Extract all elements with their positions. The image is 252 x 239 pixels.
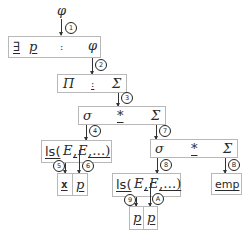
cell-p: p — [72, 173, 88, 196]
badge-8: 8 — [160, 159, 172, 171]
pure-box: Π : Σ — [57, 74, 127, 93]
star2-sigma: σ — [155, 142, 164, 156]
ls2-arg1: E — [134, 177, 144, 191]
emp-label: emp — [215, 178, 239, 192]
pure-pi: Π — [63, 77, 74, 91]
badge-B: B — [228, 159, 240, 171]
badge-3: 3 — [121, 92, 133, 104]
arrow-1 — [61, 19, 62, 35]
star-box-2: σ * Σ — [150, 139, 238, 158]
star1-Sigma: Σ — [151, 109, 160, 123]
ls-box-1: ls( E , E ,…) — [41, 140, 112, 163]
emp-box: emp — [211, 173, 242, 195]
pure-sigma: Σ — [112, 77, 121, 91]
arrow-9 — [136, 197, 137, 206]
badge-2: 2 — [95, 59, 107, 71]
badge-4: 4 — [89, 125, 101, 137]
badge-1: 1 — [65, 22, 77, 34]
exists-body: φ — [88, 39, 97, 53]
badge-7: 7 — [159, 125, 171, 137]
badge-A: A — [152, 193, 164, 205]
star-box-1: σ * Σ — [78, 106, 166, 125]
arrow-B — [225, 158, 226, 173]
pure-colon: : — [91, 77, 94, 91]
ls2-comma: , — [144, 177, 148, 191]
arrow-4 — [86, 125, 87, 140]
star1-star: * — [117, 109, 124, 123]
star1-sigma: σ — [83, 109, 92, 123]
root-phi: φ — [57, 4, 66, 18]
exists-quantifier: ∃ — [13, 40, 20, 54]
cell-x-value: x — [61, 178, 68, 192]
arrow-7 — [156, 125, 157, 139]
arrow-8 — [157, 158, 158, 173]
ls-box-2: ls( E , E ,…) — [112, 173, 181, 197]
cell-p-left-value: p — [133, 211, 141, 225]
ls1-comma: , — [73, 144, 77, 158]
ls2-pred: ls( — [116, 178, 131, 192]
exists-box: ∃ p : φ — [8, 36, 101, 58]
badge-6: 6 — [82, 160, 94, 172]
arrow-6 — [79, 150, 80, 173]
ls1-arg1: E — [63, 144, 73, 158]
arrow-5 — [65, 163, 66, 173]
ls1-rest: ,…) — [88, 144, 110, 158]
star2-star: * — [191, 142, 198, 156]
star2-Sigma: Σ — [223, 142, 232, 156]
exists-colon: : — [60, 40, 63, 54]
arrow-2 — [92, 58, 93, 74]
cell-p-left: p — [129, 206, 144, 230]
arrow-A — [150, 183, 151, 206]
exists-var: p — [29, 40, 37, 54]
arrow-3 — [118, 93, 119, 106]
cell-p-right-value: p — [147, 211, 155, 225]
ls1-pred: ls( — [45, 145, 60, 159]
cell-p-right: p — [143, 206, 158, 230]
cell-p-value: p — [76, 178, 84, 192]
cell-x: x — [57, 173, 73, 196]
ls2-rest: ,…) — [159, 177, 181, 191]
